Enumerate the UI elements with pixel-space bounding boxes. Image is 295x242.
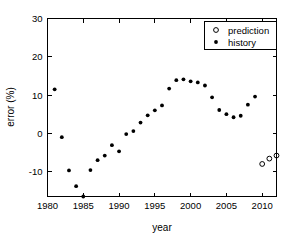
data-point-history <box>239 114 243 118</box>
y-tick-label: -10 <box>29 166 43 177</box>
data-point-history <box>232 115 236 119</box>
y-axis-title: error (%) <box>5 87 16 126</box>
x-axis-title: year <box>152 222 172 233</box>
data-point-history <box>74 184 78 188</box>
x-tick-label: 1985 <box>73 200 94 211</box>
data-point-history <box>60 135 64 139</box>
data-point-history <box>117 149 121 153</box>
data-point-history <box>67 169 71 173</box>
data-point-history <box>81 195 85 199</box>
data-point-history <box>253 95 257 99</box>
data-point-history <box>89 168 93 172</box>
x-tick-label: 1980 <box>37 200 58 211</box>
data-point-prediction <box>267 156 272 161</box>
data-point-history <box>182 77 186 81</box>
data-point-history <box>174 78 178 82</box>
x-axis-tick-labels: 1980198519901995200020052010 <box>37 200 273 211</box>
data-point-history <box>131 129 135 133</box>
data-point-history <box>53 87 57 91</box>
x-tick-label: 1995 <box>144 200 165 211</box>
data-point-history <box>153 108 157 112</box>
data-point-history <box>217 108 221 112</box>
series-history-points <box>53 77 257 198</box>
legend: prediction history <box>205 22 277 50</box>
legend-marker-history <box>214 40 218 44</box>
x-tick-label: 2005 <box>216 200 237 211</box>
legend-label-prediction: prediction <box>228 25 269 36</box>
data-point-history <box>189 79 193 83</box>
data-point-history <box>203 84 207 88</box>
data-point-history <box>110 143 114 147</box>
data-point-history <box>139 121 143 125</box>
data-point-history <box>246 103 250 107</box>
x-tick-label: 2010 <box>252 200 273 211</box>
y-tick-label: 30 <box>32 13 43 24</box>
y-axis-tick-labels: 3020100-10 <box>29 13 43 177</box>
y-tick-label: 0 <box>37 128 42 139</box>
x-tick-label: 1990 <box>108 200 129 211</box>
data-point-history <box>167 87 171 91</box>
data-point-history <box>160 103 164 107</box>
scatter-plot: 1980198519901995200020052010 3020100-10 … <box>0 0 295 242</box>
y-tick-label: 20 <box>32 51 43 62</box>
data-point-history <box>196 81 200 85</box>
data-point-history <box>210 95 214 99</box>
y-tick-label: 10 <box>32 90 43 101</box>
legend-label-history: history <box>228 37 256 48</box>
data-point-prediction <box>260 162 265 167</box>
data-point-history <box>96 158 100 162</box>
figure-canvas: 1980198519901995200020052010 3020100-10 … <box>0 0 295 242</box>
x-tick-label: 2000 <box>180 200 201 211</box>
data-point-history <box>146 113 150 117</box>
data-point-history <box>225 112 229 116</box>
data-point-history <box>124 132 128 136</box>
data-point-history <box>103 154 107 158</box>
